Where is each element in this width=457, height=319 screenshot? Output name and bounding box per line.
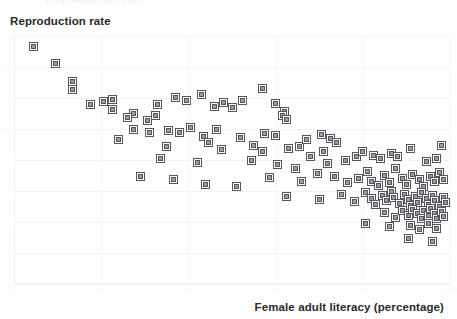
data-point [202,181,209,188]
y-tick-label: 1.5 [1,187,12,196]
y-tick-label: 2.5 [1,125,12,134]
data-point [416,226,423,233]
data-point [364,168,371,175]
data-point [429,238,436,245]
data-point [338,191,345,198]
data-point [109,96,116,103]
x-tick-label: 0 [12,286,16,295]
data-point [296,143,303,150]
x-axis-line [14,283,450,284]
data-point [30,43,37,50]
data-point [272,100,279,107]
data-point [229,104,236,111]
data-point [248,157,255,164]
data-point [115,136,122,143]
gridline-vertical [101,36,102,284]
data-point [316,196,323,203]
data-point [87,101,94,108]
data-point [431,178,438,185]
y-tick-label: 4 [8,32,12,41]
data-point [396,200,403,207]
data-point [440,213,447,220]
y-axis-line [14,36,15,284]
data-point [386,223,393,230]
data-point [157,155,164,162]
data-point [233,183,240,190]
data-point [386,179,393,186]
data-point [69,78,76,85]
data-point [266,174,273,181]
data-point [381,172,388,179]
data-point [423,158,430,165]
gridline-horizontal [14,129,450,130]
y-tick-label: 3 [8,94,12,103]
data-point [109,106,116,113]
data-point [392,214,399,221]
data-point [205,139,212,146]
plot-area: 0.511.522.533.54 020406080100 [14,36,450,284]
data-point [261,130,268,137]
data-point [298,178,305,185]
x-tick-label: 20 [97,286,106,295]
data-point [130,110,137,117]
x-tick-label: 80 [358,286,367,295]
data-point [314,170,321,177]
gridline-horizontal [14,36,450,37]
data-point [394,153,401,160]
data-point [405,212,412,219]
data-point [433,155,440,162]
data-point [194,159,201,166]
gridline-horizontal [14,67,450,68]
data-point [172,94,179,101]
x-tick-label: 60 [271,286,280,295]
data-point [303,136,310,143]
data-point [152,112,159,119]
data-point [176,129,183,136]
data-point [405,235,412,242]
data-point [381,209,388,216]
data-point [438,142,445,149]
data-point [130,126,137,133]
gridline-vertical [363,36,364,284]
data-point [320,148,327,155]
data-point [52,60,59,67]
x-tick-label: 100 [443,286,456,295]
data-point [69,86,76,93]
data-point [154,101,161,108]
data-point [285,145,292,152]
gridline-horizontal [14,253,450,254]
data-point [259,85,266,92]
data-point [170,176,177,183]
data-point [407,145,414,152]
data-point [355,175,362,182]
data-point [137,173,144,180]
data-point [425,220,432,227]
data-point [372,201,379,208]
gridline-vertical [188,36,189,284]
data-point [283,116,290,123]
data-point [440,176,447,183]
data-point [183,97,190,104]
data-point [198,91,205,98]
data-point [220,99,227,106]
data-point [163,143,170,150]
data-point [292,165,299,172]
data-point [274,161,281,168]
data-point [331,173,338,180]
y-tick-label: 2 [8,156,12,165]
data-point [433,225,440,232]
x-axis-title: Female adult literacy (percentage) [255,301,444,313]
data-point [218,146,225,153]
gridline-horizontal [14,98,450,99]
data-point [375,182,382,189]
data-point [187,124,194,131]
x-tick-label: 40 [184,286,193,295]
data-point [392,165,399,172]
data-point [351,198,358,205]
data-point [211,103,218,110]
data-point [344,179,351,186]
data-point [165,127,172,134]
clipped-header-text: Reproduction rate [46,0,144,5]
data-point [403,181,410,188]
